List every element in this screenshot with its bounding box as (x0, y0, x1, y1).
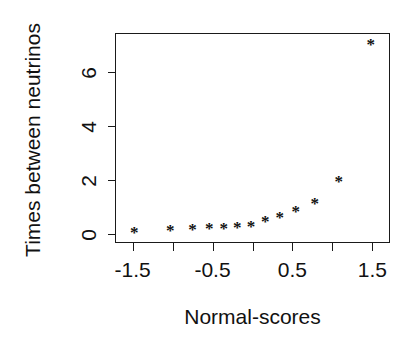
x-tick-mark (372, 243, 373, 251)
y-axis-title: Times between neutrinos (21, 15, 45, 265)
x-tick-label: 0.5 (262, 258, 322, 282)
x-tick-mark (292, 243, 293, 251)
x-tick-label: -0.5 (183, 258, 243, 282)
x-tick-mark (213, 243, 214, 251)
x-tick-label: 1.5 (342, 258, 402, 282)
x-tick-mark (133, 243, 134, 251)
y-tick-mark (108, 72, 116, 73)
y-tick-label: 6 (77, 58, 101, 88)
y-tick-mark (108, 180, 116, 181)
x-tick-mark (332, 243, 333, 251)
y-tick-label: 2 (77, 166, 101, 196)
y-tick-mark (108, 234, 116, 235)
x-tick-mark (173, 243, 174, 251)
plot-frame (115, 33, 390, 243)
x-tick-label: -1.5 (103, 258, 163, 282)
y-tick-label: 4 (77, 112, 101, 142)
y-tick-mark (108, 126, 116, 127)
y-tick-label: 0 (77, 220, 101, 250)
y-axis-tick-labels: 0246 (72, 0, 104, 357)
x-axis-title: Normal-scores (115, 305, 390, 329)
chart-page: ************* 0246 -1.5-0.50.51.5 Times … (0, 0, 414, 357)
x-tick-mark (253, 243, 254, 251)
